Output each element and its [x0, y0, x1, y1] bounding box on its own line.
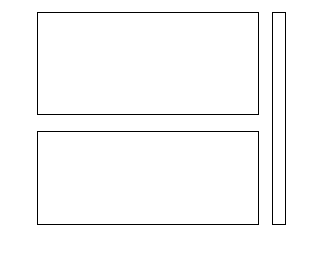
top-heatmap-bands: [38, 13, 258, 114]
top-axis-x-tickmarks: [37, 115, 259, 118]
bottom-axis-y-tick-labels: [0, 131, 33, 225]
top-heatmap-axes: [37, 12, 259, 115]
bottom-heatmap-bands: [38, 132, 258, 224]
colorbar-tick-marks: [286, 12, 289, 225]
bottom-axis-x-tick-labels: [37, 230, 259, 242]
bottom-axis-x-tickmarks: [37, 225, 259, 228]
bottom-axis-y-tickmarks: [34, 131, 37, 225]
top-axis-y-tickmarks: [34, 12, 37, 115]
colorbar-axes: [272, 12, 286, 225]
colorbar-tick-labels: [291, 12, 315, 225]
colorbar-bands: [273, 13, 285, 224]
bottom-heatmap-axes: [37, 131, 259, 225]
matplotlib-figure: [0, 0, 315, 256]
top-axis-y-tick-labels: [0, 12, 33, 115]
